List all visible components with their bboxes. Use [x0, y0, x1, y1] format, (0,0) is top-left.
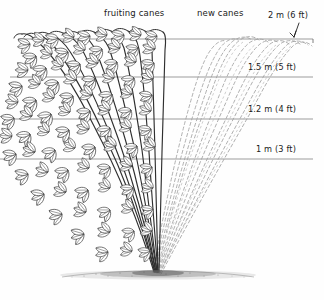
soil-line-icon: [60, 270, 256, 280]
label-new-canes: new canes: [197, 8, 244, 18]
plant-training-diagram: fruiting canes new canes 2 m (6 ft) 1.5 …: [0, 0, 324, 300]
down-arrow-icon: [290, 23, 299, 37]
label-height-1m: 1 m (3 ft): [256, 144, 296, 154]
label-fruiting-canes: fruiting canes: [104, 8, 164, 18]
foliage-group: [0, 23, 161, 264]
label-height-1_5m: 1.5 m (5 ft): [248, 62, 296, 72]
new-canes-group: [153, 37, 312, 274]
label-height-1_2m: 1.2 m (4 ft): [248, 104, 296, 114]
label-height-2m: 2 m (6 ft): [268, 10, 308, 20]
